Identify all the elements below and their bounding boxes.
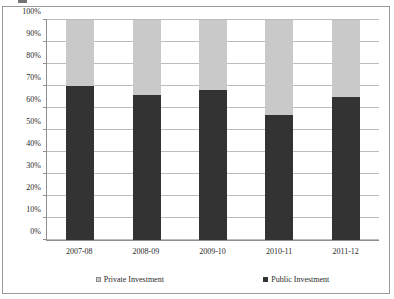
legend-entry[interactable]: Private Investment: [96, 275, 164, 284]
y-axis-tick-label: 30%: [26, 162, 41, 170]
legend-label: Private Investment: [104, 275, 164, 284]
y-axis-tick-label: 10%: [26, 206, 41, 214]
x-axis-tick-label: 2009-10: [184, 245, 240, 259]
bar-column[interactable]: [66, 20, 94, 240]
x-axis-tick-label: 2008-09: [118, 245, 174, 259]
x-axis-tick-label: 2007-08: [51, 245, 107, 259]
y-axis-tick-label: 80%: [26, 52, 41, 60]
chart-legend: Private InvestmentPublic Investment: [46, 275, 379, 284]
y-axis-tick-label: 0%: [30, 228, 41, 236]
legend-entry[interactable]: Public Investment: [263, 275, 329, 284]
y-axis-tick-label: 20%: [26, 184, 41, 192]
bars-layer: [47, 20, 379, 240]
bar-segment-public-investment[interactable]: [133, 95, 161, 240]
bar-segment-public-investment[interactable]: [332, 97, 360, 240]
x-axis-tick-label: 2011-12: [318, 245, 374, 259]
public-swatch-icon: [263, 277, 268, 282]
bar-column[interactable]: [265, 20, 293, 240]
bar-segment-private-investment[interactable]: [66, 20, 94, 86]
bar-segment-public-investment[interactable]: [199, 90, 227, 240]
plot-wrap: 0%10%20%30%40%50%60%70%80%90%100%: [46, 20, 379, 241]
y-axis-tick-label: 50%: [26, 118, 41, 126]
x-axis-tick-label: 2010-11: [251, 245, 307, 259]
private-swatch-icon: [96, 277, 101, 282]
bar-segment-private-investment[interactable]: [332, 20, 360, 97]
y-axis-tick-label: 60%: [26, 96, 41, 104]
y-axis-tick-label: 70%: [26, 74, 41, 82]
chart-frame: 0%10%20%30%40%50%60%70%80%90%100% 2007-0…: [2, 6, 390, 294]
bar-column[interactable]: [332, 20, 360, 240]
bar-segment-private-investment[interactable]: [133, 20, 161, 95]
legend-label: Public Investment: [271, 275, 329, 284]
bar-segment-public-investment[interactable]: [265, 115, 293, 240]
bar-column[interactable]: [133, 20, 161, 240]
bar-segment-private-investment[interactable]: [265, 20, 293, 115]
cut-off-text-sliver: [18, 0, 27, 3]
y-axis-tick-label: 90%: [26, 30, 41, 38]
y-axis-tick-label: 40%: [26, 140, 41, 148]
bar-segment-private-investment[interactable]: [199, 20, 227, 90]
y-axis-tick-label: 100%: [22, 8, 41, 16]
x-axis-labels: 2007-082008-092009-102010-112011-12: [46, 245, 379, 259]
bar-column[interactable]: [199, 20, 227, 240]
plot-area: 0%10%20%30%40%50%60%70%80%90%100%: [46, 20, 379, 241]
bar-segment-public-investment[interactable]: [66, 86, 94, 240]
